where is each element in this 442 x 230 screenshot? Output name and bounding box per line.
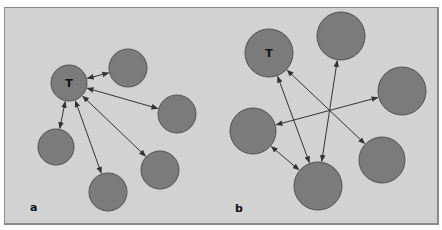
- node-b-m1: [317, 12, 365, 60]
- panel-b: T b: [230, 12, 426, 215]
- node-a-n5: [38, 129, 74, 165]
- node-a-n4: [89, 173, 127, 211]
- edge-b-m5-m4: [271, 147, 299, 170]
- node-a-n3: [141, 151, 179, 189]
- node-b-m4: [294, 162, 342, 210]
- node-a-n2: [158, 95, 196, 133]
- network-diagram: T a T b: [0, 0, 442, 230]
- edge-a-T-n2: [87, 88, 158, 108]
- node-b-m2: [378, 67, 426, 115]
- node-label-a-T: T: [65, 77, 73, 90]
- edge-a-T-n5: [60, 102, 65, 129]
- panel-b-label: b: [235, 202, 243, 215]
- node-b-m5: [230, 108, 276, 154]
- edge-b-m1-m4: [322, 61, 337, 162]
- edge-b-m5-m2: [276, 97, 378, 124]
- node-a-n1: [109, 49, 147, 87]
- panel-a-label: a: [30, 201, 37, 214]
- edge-a-T-n4: [75, 101, 101, 173]
- node-b-m3: [359, 137, 405, 183]
- edge-a-T-n1: [87, 73, 108, 78]
- panel-a-nodes: T: [38, 49, 196, 211]
- node-label-b-T: T: [265, 47, 273, 60]
- edge-b-T-m4: [278, 76, 310, 162]
- panel-a: T a: [30, 49, 196, 214]
